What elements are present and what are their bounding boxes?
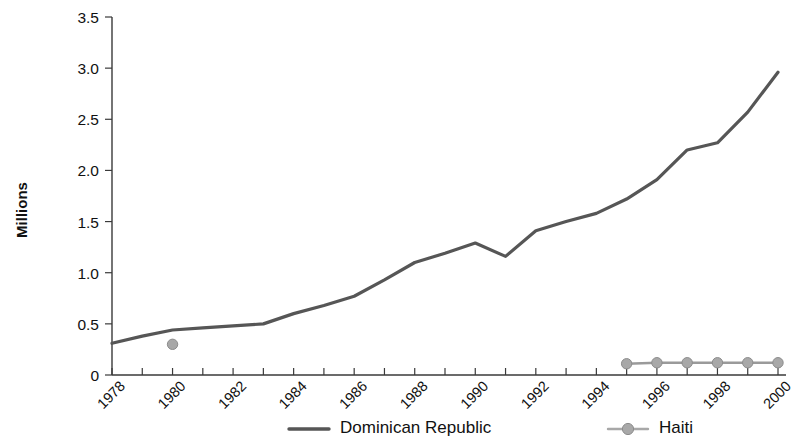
x-tick-label: 1994 — [578, 378, 612, 412]
x-tick-label: 1996 — [639, 378, 673, 412]
data-point-marker — [621, 359, 631, 369]
data-point-marker — [743, 358, 753, 368]
data-point-marker — [773, 358, 783, 368]
y-tick-label: 3.0 — [77, 60, 99, 77]
y-tick-label: 0 — [90, 367, 99, 384]
y-tick-label: 3.5 — [77, 9, 99, 26]
legend-swatch-marker — [622, 423, 633, 434]
data-series-layer — [112, 72, 783, 369]
y-tick-label: 1.5 — [77, 214, 99, 231]
y-tick-label: 2.5 — [77, 111, 99, 128]
x-tick-label: 1990 — [457, 378, 491, 412]
x-tick-label: 1998 — [699, 378, 733, 412]
x-tick-label: 1978 — [94, 378, 128, 412]
data-point-marker — [682, 358, 692, 368]
x-tick-label: 1988 — [397, 378, 431, 412]
series-line — [627, 363, 778, 364]
legend-item-dominican-republic[interactable]: Dominican Republic — [289, 418, 492, 437]
x-tick-label: 2000 — [760, 378, 793, 412]
y-axis-ticks: 00.51.01.52.02.53.03.5 — [77, 9, 112, 384]
legend-item-haiti[interactable]: Haiti — [608, 418, 693, 437]
legend-label: Dominican Republic — [340, 418, 492, 437]
x-tick-label: 1992 — [518, 378, 552, 412]
series-line — [112, 72, 778, 343]
x-tick-label: 1984 — [276, 378, 310, 412]
y-tick-label: 2.0 — [77, 162, 99, 179]
data-point-marker — [652, 358, 662, 368]
chart-legend: Dominican RepublicHaiti — [289, 418, 693, 437]
series-dominican-republic — [112, 72, 778, 343]
data-point-marker — [167, 339, 177, 349]
chart-container: Millions 00.51.01.52.02.53.03.5 19781980… — [0, 0, 793, 445]
y-axis-label-text: Millions — [13, 182, 30, 238]
y-tick-label: 1.0 — [77, 265, 99, 282]
y-tick-label: 0.5 — [77, 316, 99, 333]
line-chart: Millions 00.51.01.52.02.53.03.5 19781980… — [0, 0, 793, 445]
x-tick-label: 1982 — [215, 378, 249, 412]
series-haiti — [167, 339, 783, 369]
legend-label: Haiti — [659, 418, 693, 437]
x-tick-label: 1980 — [155, 378, 189, 412]
data-point-marker — [712, 358, 722, 368]
y-axis-label: Millions — [13, 182, 30, 238]
x-tick-label: 1986 — [336, 378, 370, 412]
